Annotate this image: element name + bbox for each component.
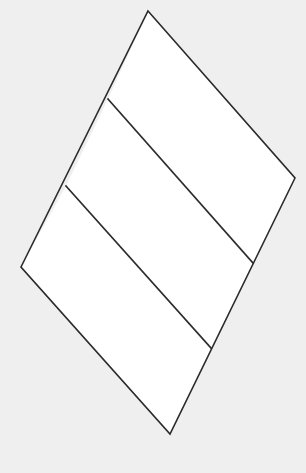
figure-canvas [0,0,306,473]
geometric-figure-svg [0,0,306,473]
